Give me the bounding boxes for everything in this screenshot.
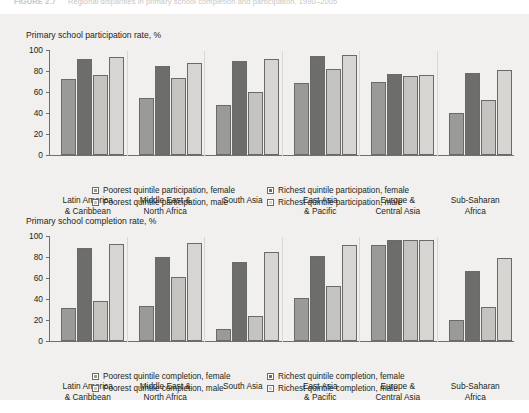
bar — [139, 98, 154, 155]
group-separator — [282, 237, 283, 342]
legend-label: Poorest quintile participation, female — [103, 186, 235, 195]
chart-panel-participation: Primary school participation rate, % 100… — [0, 14, 529, 200]
bar — [294, 83, 309, 155]
bar — [419, 75, 434, 155]
bar — [61, 79, 76, 155]
group-separator — [437, 237, 438, 342]
y-axis-tick-label: 20 — [18, 130, 43, 138]
legend-label: Richest quintile completion, female — [278, 372, 405, 381]
bar — [342, 245, 357, 341]
legend-label: Poorest quintile completion, male — [103, 384, 224, 393]
bar — [465, 73, 480, 155]
bar — [371, 82, 386, 156]
legend-item: Richest quintile participation, female — [267, 184, 452, 196]
legend-item: Richest quintile completion, female — [267, 370, 452, 382]
bar — [171, 277, 186, 341]
bar — [310, 56, 325, 155]
bar — [216, 105, 231, 155]
bar — [232, 61, 247, 156]
bar — [465, 271, 480, 341]
bar — [326, 69, 341, 155]
bar — [497, 258, 512, 341]
bar — [387, 240, 402, 341]
bar-group — [49, 236, 127, 341]
bar — [248, 316, 263, 341]
legend-label: Richest quintile completion, male — [278, 384, 398, 393]
y-axis-tick-label: 60 — [18, 88, 43, 96]
group-separator — [127, 237, 128, 342]
bar — [77, 248, 92, 341]
bar — [497, 70, 512, 155]
panel-title-participation: Primary school participation rate, % — [26, 30, 161, 40]
y-axis-tick-label: 80 — [18, 67, 43, 75]
bar — [187, 63, 202, 155]
y-axis-tick-label: 100 — [18, 46, 43, 54]
figure-caption-text: Regional disparities in primary school c… — [68, 0, 337, 6]
bar — [109, 57, 124, 155]
bar-group — [204, 50, 282, 155]
y-axis-tick-mark — [46, 341, 49, 342]
legend-item: Poorest quintile completion, male — [92, 382, 267, 394]
group-separator — [359, 237, 360, 342]
bar-group — [127, 50, 205, 155]
bar-group — [359, 236, 437, 341]
legend-swatch-icon — [92, 373, 99, 380]
legend-item: Poorest quintile participation, female — [92, 184, 267, 196]
bar — [264, 252, 279, 341]
bar — [342, 55, 357, 155]
group-separator — [204, 51, 205, 156]
bar — [77, 59, 92, 155]
legend-swatch-icon — [267, 373, 274, 380]
bar — [187, 243, 202, 341]
bar — [93, 75, 108, 155]
bar — [139, 306, 154, 341]
legend-completion: Poorest quintile completion, femaleRiche… — [92, 370, 452, 394]
y-axis-tick-label: 80 — [18, 253, 43, 261]
bar-group — [204, 236, 282, 341]
group-separator — [204, 237, 205, 342]
legend-item: Richest quintile completion, male — [267, 382, 452, 394]
y-axis-tick-label: 100 — [18, 232, 43, 240]
bar — [155, 66, 170, 155]
bar — [403, 240, 418, 341]
plot-area-participation: 100806040200Latin America& CaribbeanMidd… — [49, 50, 514, 156]
legend-label: Poorest quintile completion, female — [103, 372, 230, 381]
bar — [387, 74, 402, 155]
bar — [264, 59, 279, 155]
bar — [232, 262, 247, 341]
bar — [294, 298, 309, 341]
y-axis-tick-label: 40 — [18, 295, 43, 303]
group-separator — [127, 51, 128, 156]
legend-swatch-icon — [92, 385, 99, 392]
bar-group — [127, 236, 205, 341]
figure-caption: FIGURE 2.7 Regional disparities in prima… — [14, 0, 337, 6]
bar — [449, 320, 464, 341]
y-axis-tick-label: 0 — [18, 151, 43, 159]
bar — [403, 76, 418, 155]
bar-group — [282, 236, 360, 341]
y-axis-tick-mark — [46, 155, 49, 156]
plot-area-completion: 100806040200Latin America& CaribbeanMidd… — [49, 236, 514, 342]
bar — [481, 100, 496, 155]
bar-group — [282, 50, 360, 155]
bar — [310, 256, 325, 341]
legend-swatch-icon — [92, 187, 99, 194]
bar — [171, 78, 186, 155]
legend-item: Poorest quintile completion, female — [92, 370, 267, 382]
bar — [109, 244, 124, 341]
bar-group — [49, 50, 127, 155]
bar — [61, 308, 76, 341]
bar — [155, 257, 170, 341]
group-separator — [359, 51, 360, 156]
bar — [216, 329, 231, 341]
figure-caption-label: FIGURE 2.7 — [14, 0, 56, 6]
y-axis-tick-label: 20 — [18, 316, 43, 324]
y-axis-tick-label: 0 — [18, 337, 43, 345]
group-separator — [282, 51, 283, 156]
bar-group — [437, 236, 515, 341]
bar — [419, 240, 434, 341]
bar-group — [437, 50, 515, 155]
bar — [248, 92, 263, 155]
bar-group — [359, 50, 437, 155]
bar — [449, 113, 464, 155]
